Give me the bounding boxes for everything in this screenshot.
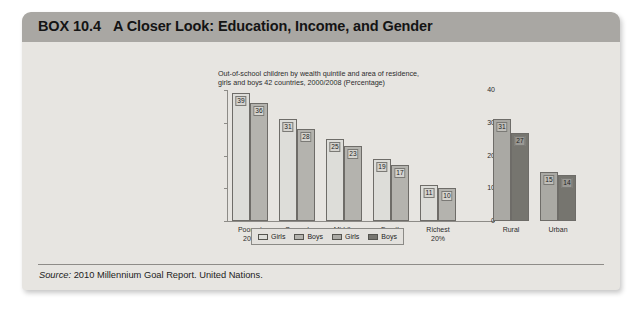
legend-swatch-icon: [332, 234, 342, 240]
legend-label: Girls: [271, 233, 285, 240]
legend-item: Girls: [258, 233, 285, 240]
bar-girls: 15: [540, 172, 558, 221]
x-category-line: Richest: [414, 225, 462, 234]
x-category-line: 20%: [414, 234, 462, 243]
legend-label: Boys: [307, 233, 323, 240]
source-body: 2010 Millennium Goal Report. United Nati…: [71, 270, 263, 280]
legend-swatch-icon: [368, 234, 378, 240]
legend-item: Boys: [368, 233, 397, 240]
bar-value-label: 15: [543, 175, 554, 185]
bar-boys: 10: [438, 188, 456, 221]
bar-girls: 19: [373, 159, 391, 221]
bar-value-label: 39: [235, 96, 246, 106]
legend-item: Boys: [294, 233, 323, 240]
bar-value-label: 14: [561, 178, 572, 188]
chart-title-line-1: Out-of-school children by wealth quintil…: [218, 69, 518, 78]
legend-swatch-icon: [258, 234, 268, 240]
legend-item: Girls: [332, 233, 359, 240]
box-card: BOX 10.4A Closer Look: Education, Income…: [22, 12, 620, 290]
legend-label: Girls: [345, 233, 359, 240]
bar-girls: 11: [420, 185, 438, 221]
bar-girls: 31: [493, 119, 511, 221]
x-category-line: Urban: [534, 225, 582, 234]
figure-area: Out-of-school children by wealth quintil…: [22, 42, 620, 260]
chart-title: Out-of-school children by wealth quintil…: [218, 69, 518, 87]
legend-label: Boys: [381, 233, 397, 240]
bar-girls: 39: [232, 93, 250, 221]
x-category-label: Richest20%: [414, 225, 462, 243]
bar-value-label: 31: [496, 122, 507, 132]
x-category-label: Rural: [487, 225, 535, 234]
bar-value-label: 25: [329, 142, 340, 152]
x-category-line: Rural: [487, 225, 535, 234]
bar-boys: 17: [391, 165, 409, 221]
box-header: BOX 10.4A Closer Look: Education, Income…: [22, 12, 620, 42]
bar-girls: 25: [326, 139, 344, 221]
chart-legend: GirlsBoysGirlsBoys: [251, 228, 404, 245]
bars-layer: 3936312825231917111031271514: [228, 90, 495, 221]
bar-chart-plot: 010203040 3936312825231917111031271514 P…: [205, 90, 495, 222]
bar-value-label: 23: [347, 149, 358, 159]
bar-boys: 36: [250, 103, 268, 221]
bar-boys: 14: [558, 175, 576, 221]
x-axis-line: [227, 221, 495, 222]
bar-value-label: 36: [253, 106, 264, 116]
bar-value-label: 10: [441, 191, 452, 201]
source-divider: [38, 264, 604, 265]
box-header-title: BOX 10.4A Closer Look: Education, Income…: [38, 18, 433, 34]
bar-girls: 31: [279, 119, 297, 221]
bar-value-label: 27: [514, 136, 525, 146]
bar-boys: 27: [511, 133, 529, 221]
bar-value-label: 17: [394, 168, 405, 178]
bar-value-label: 28: [300, 132, 311, 142]
bar-value-label: 11: [424, 188, 435, 198]
source-lead: Source:: [39, 270, 71, 280]
bar-boys: 23: [344, 146, 362, 221]
y-tick-mark: [224, 221, 228, 222]
bar-value-label: 19: [376, 162, 387, 172]
bar-value-label: 31: [282, 122, 293, 132]
bar-boys: 28: [297, 129, 315, 221]
box-number: BOX 10.4: [38, 18, 101, 34]
box-title: A Closer Look: Education, Income, and Ge…: [113, 18, 433, 34]
source-line: Source: 2010 Millennium Goal Report. Uni…: [39, 270, 263, 280]
legend-swatch-icon: [294, 234, 304, 240]
chart-title-line-2: girls and boys 42 countries, 2000/2008 (…: [218, 78, 518, 87]
x-category-label: Urban: [534, 225, 582, 234]
